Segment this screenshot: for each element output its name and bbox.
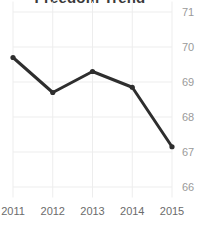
x-axis-tick-label: 2014 — [120, 205, 144, 217]
data-point-marker — [90, 69, 95, 74]
x-axis-tick-label: 2013 — [80, 205, 104, 217]
y-axis-tick-label: 71 — [182, 6, 203, 18]
y-axis-tick-label: 68 — [182, 111, 203, 123]
y-axis-tick-label: 69 — [182, 76, 203, 88]
x-axis-tick-label: 2011 — [1, 205, 25, 217]
line-chart-plot — [0, 0, 203, 225]
grid-lines-vertical — [13, 2, 172, 198]
y-axis-tick-label: 66 — [182, 181, 203, 193]
x-axis-tick-label: 2015 — [160, 205, 184, 217]
chart-screenshot: Freedom Trend 666768697071 2011201220132… — [0, 0, 203, 225]
data-point-marker — [130, 85, 135, 90]
y-axis-tick-label: 70 — [182, 41, 203, 53]
data-point-marker — [10, 55, 15, 60]
y-axis-tick-label: 67 — [182, 146, 203, 158]
data-point-marker — [50, 90, 55, 95]
x-axis-tick-label: 2012 — [41, 205, 65, 217]
data-point-marker — [169, 144, 174, 149]
